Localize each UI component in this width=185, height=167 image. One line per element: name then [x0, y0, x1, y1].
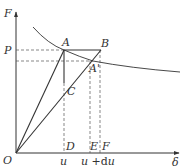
tick-u-label: u — [60, 155, 67, 167]
diagram-canvas: F δ O P A B A' C D E F u u +du — [0, 0, 185, 167]
x-axis-label: δ — [172, 156, 179, 167]
point-d-label: D — [65, 140, 75, 153]
y-axis-label: F — [3, 7, 12, 20]
tick-u-du-label: u +du — [81, 155, 115, 167]
point-b-label: B — [100, 37, 109, 50]
point-a-prime-label: A' — [88, 62, 100, 75]
origin-label: O — [3, 154, 12, 167]
p-label: P — [3, 44, 12, 57]
point-a-label: A — [61, 36, 70, 49]
point-f-label: F — [101, 140, 110, 153]
line-o-a — [16, 50, 64, 153]
point-c-label: C — [67, 85, 76, 98]
point-e-label: E — [89, 140, 98, 153]
